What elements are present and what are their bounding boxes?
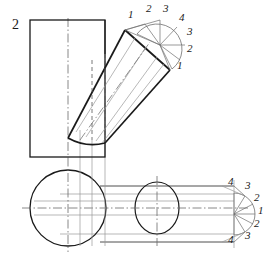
technical-drawing-sheet: 2 1 2 3 4 3 2 1 4 3 2 1 2 3 4 xyxy=(0,0,280,272)
view-number-label: 2 xyxy=(12,18,19,32)
label-top-3: 3 xyxy=(163,3,169,14)
top-view-horizontal-cylinder xyxy=(100,186,234,242)
auxiliary-radii-upper xyxy=(125,20,185,70)
hidden-edges xyxy=(92,54,105,143)
label-bottom-4-bot: 4 xyxy=(228,234,234,245)
label-bottom-3-bot: 3 xyxy=(245,230,251,241)
label-top-1-left: 1 xyxy=(128,9,134,20)
label-top-1-right: 1 xyxy=(177,60,183,71)
label-bottom-3-top: 3 xyxy=(245,180,251,191)
label-bottom-4-top: 4 xyxy=(228,176,234,187)
top-view-generator-lines xyxy=(34,194,234,234)
label-bottom-1: 1 xyxy=(258,205,264,216)
label-top-4: 4 xyxy=(179,12,185,23)
label-top-3-right: 3 xyxy=(187,26,193,37)
drawing-canvas xyxy=(0,0,280,272)
label-bottom-2-bot: 2 xyxy=(254,218,260,229)
label-bottom-2-top: 2 xyxy=(254,192,260,203)
label-top-2-right: 2 xyxy=(187,43,193,54)
label-top-2-left: 2 xyxy=(146,3,152,14)
